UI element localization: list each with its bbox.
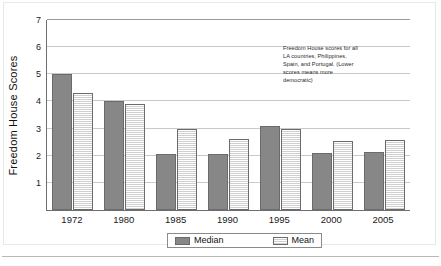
- x-tick-label: 1985: [165, 215, 186, 225]
- bar-mean-2005: [385, 140, 405, 210]
- bar-group: [99, 20, 151, 210]
- y-tick-label: 1: [36, 178, 41, 187]
- bar-mean-1980: [125, 104, 145, 210]
- x-tick-label: 2000: [321, 215, 342, 225]
- x-tick-label: 1995: [269, 215, 290, 225]
- y-tick-label: 7: [36, 16, 41, 25]
- legend-label: Median: [194, 236, 224, 245]
- annotation-line: LA countries, Philippines,: [283, 52, 383, 60]
- bar-median-1972: [52, 74, 72, 210]
- legend-label: Mean: [292, 236, 315, 245]
- y-tick-label: 3: [36, 124, 41, 133]
- bar-median-2000: [312, 153, 332, 210]
- annotation-line: scores means more: [283, 68, 383, 76]
- bar-mean-1990: [229, 139, 249, 210]
- bar-median-1985: [156, 154, 176, 210]
- x-tick-label: 1972: [61, 215, 82, 225]
- legend-swatch-median: [175, 237, 190, 245]
- legend-swatch-mean: [273, 237, 288, 245]
- y-tick-label: 5: [36, 70, 41, 79]
- y-tick-label: 6: [36, 43, 41, 52]
- bar-mean-1985: [177, 129, 197, 210]
- bar-group: [47, 20, 99, 210]
- annotation-line: Freedom House scores for all: [283, 44, 383, 52]
- y-tick-label: 2: [36, 151, 41, 160]
- bar-median-1990: [208, 154, 228, 210]
- bar-mean-1972: [73, 93, 93, 210]
- chart-legend: MedianMean: [167, 233, 322, 248]
- y-tick-label: 4: [36, 97, 41, 106]
- bar-mean-1995: [281, 129, 301, 210]
- freedom-house-scores-chart: Freedom House Scores 01234567 1972198019…: [0, 0, 441, 266]
- x-tick-label: 1980: [113, 215, 134, 225]
- annotation-line: Spain, and Portugal. (Lower: [283, 60, 383, 68]
- x-tick-label: 1990: [217, 215, 238, 225]
- x-tick-label: 2005: [372, 215, 393, 225]
- annotation-line: democratic): [283, 76, 383, 84]
- legend-entry-mean: Mean: [273, 236, 315, 245]
- legend-entry-median: Median: [175, 236, 224, 245]
- bar-median-1980: [104, 101, 124, 210]
- page-horizontal-rule: [2, 256, 439, 257]
- bar-mean-2000: [333, 141, 353, 210]
- y-axis-title: Freedom House Scores: [6, 20, 20, 211]
- chart-annotation-note: Freedom House scores for allLA countries…: [283, 44, 383, 84]
- bar-median-2005: [364, 152, 384, 210]
- bar-group: [151, 20, 203, 210]
- bar-group: [203, 20, 255, 210]
- bar-median-1995: [260, 126, 280, 210]
